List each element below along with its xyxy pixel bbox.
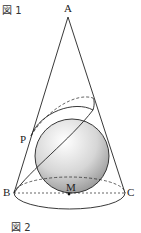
label-A: A (64, 2, 72, 14)
cone-sphere-diagram (0, 0, 141, 233)
base-ellipse-front (14, 193, 125, 209)
figure-2-label: 図 2 (11, 219, 31, 233)
label-B: B (3, 186, 10, 198)
label-P: P (20, 133, 26, 145)
label-M: M (66, 181, 76, 193)
point-M-dot (68, 193, 71, 196)
label-C: C (127, 186, 134, 198)
